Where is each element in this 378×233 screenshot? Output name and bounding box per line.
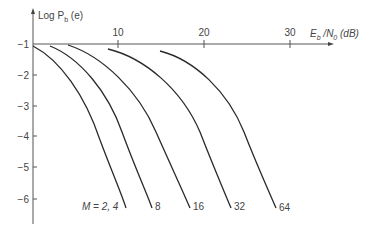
x-tick-label: 20 <box>198 27 210 38</box>
y-ticks: −1 −2 −3 −4 −5 −6 <box>18 39 37 205</box>
y-tick-label: −3 <box>18 101 30 112</box>
y-tick-label: −1 <box>18 39 30 50</box>
curve-label-8: 8 <box>155 201 161 212</box>
x-tick-label: 30 <box>284 27 296 38</box>
y-axis-arrow-icon <box>31 8 35 14</box>
y-axis-label: Log Pb (e) <box>38 10 83 23</box>
curve-label-32: 32 <box>234 201 246 212</box>
y-tick-label: −4 <box>18 131 30 142</box>
curve-m-64 <box>160 51 276 208</box>
y-tick-label: −2 <box>18 70 30 81</box>
curve-label-64: 64 <box>279 202 291 213</box>
x-axis-label: Eb /N0 (dB) <box>310 28 359 41</box>
curve-label-m-2-4: M = 2, 4 <box>82 201 119 212</box>
x-ticks: 10 20 30 <box>112 27 296 48</box>
curve-m-32 <box>108 49 231 208</box>
y-tick-label: −6 <box>18 194 30 205</box>
curve-m-16 <box>68 45 190 208</box>
bit-error-probability-chart: 10 20 30 −1 −2 −3 −4 −5 −6 Log Pb (e) Eb… <box>0 0 378 233</box>
curve-label-16: 16 <box>193 201 205 212</box>
x-tick-label: 10 <box>112 27 124 38</box>
curve-m-8 <box>50 46 152 208</box>
curve-m-2-4 <box>33 46 126 208</box>
x-axis-arrow-icon <box>328 42 334 46</box>
y-tick-label: −5 <box>18 162 30 173</box>
